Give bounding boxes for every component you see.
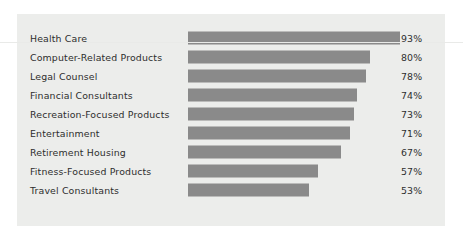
bar-track [188,69,400,82]
bar-category-label: Computer-Related Products [30,51,162,62]
bar-category-label: Entertainment [30,127,100,138]
bar-value-label: 73% [401,108,422,119]
bar-chart-row: Fitness-Focused Products57% [17,161,445,180]
bar [188,88,357,101]
bar-value-label: 57% [401,165,422,176]
bar-track [188,126,400,139]
bar [188,126,350,139]
bar [188,164,318,177]
bar-value-label: 53% [401,184,422,195]
bar [188,183,309,196]
bar-track [188,183,400,196]
bar-category-label: Fitness-Focused Products [30,165,151,176]
bar [188,50,370,63]
bar-track [188,145,400,158]
bar-chart-row: Legal Counsel78% [17,66,445,85]
bar-category-label: Recreation-Focused Products [30,108,170,119]
bar-value-label: 78% [401,70,422,81]
bar [188,107,354,120]
bar-chart-panel: Health Care93%Computer-Related Products8… [17,14,445,226]
bar-chart-row: Entertainment71% [17,123,445,142]
bar-category-label: Financial Consultants [30,89,133,100]
bar-chart-rows: Health Care93%Computer-Related Products8… [17,28,445,199]
bar-category-label: Retirement Housing [30,146,126,157]
bar-track [188,88,400,101]
bar-track [188,164,400,177]
bar-value-label: 67% [401,146,422,157]
bar-chart-row: Health Care93% [17,28,445,47]
bar-value-label: 71% [401,127,422,138]
bar-chart-row: Travel Consultants53% [17,180,445,199]
bar-value-label: 93% [401,32,422,43]
bar-track [188,107,400,120]
bar-track [188,50,400,63]
bar-track [188,31,400,44]
bar [188,69,366,82]
bar [188,145,341,158]
bar-chart-row: Recreation-Focused Products73% [17,104,445,123]
bar-category-label: Travel Consultants [30,184,119,195]
bar [188,31,400,44]
bar-chart-row: Financial Consultants74% [17,85,445,104]
bar-category-label: Health Care [30,32,87,43]
bar-chart-row: Retirement Housing67% [17,142,445,161]
bar-category-label: Legal Counsel [30,70,97,81]
bar-value-label: 80% [401,51,422,62]
bar-value-label: 74% [401,89,422,100]
bar-chart-row: Computer-Related Products80% [17,47,445,66]
